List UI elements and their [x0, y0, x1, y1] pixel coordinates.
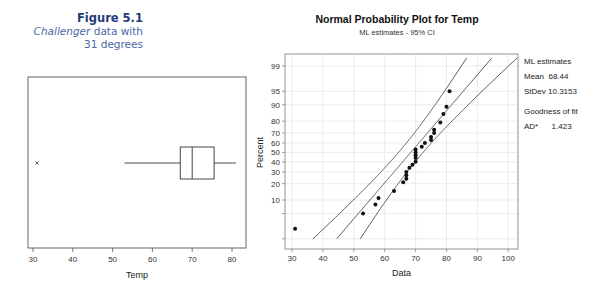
x-tick-label: 40: [318, 254, 327, 263]
data-point: [438, 120, 442, 124]
stats-panel: ML estimates Mean 68.44 StDev 10.3153 Go…: [524, 56, 578, 132]
chart-title: Normal Probability Plot for Temp: [315, 13, 478, 25]
chart-subtitle: ML estimates - 95% CI: [359, 28, 435, 37]
x-tick-label: 30: [29, 255, 38, 264]
y-tick-label: 40: [271, 158, 280, 167]
probplot-frame: [285, 54, 518, 249]
x-tick-label: 40: [68, 255, 77, 264]
y-tick-label: 60: [271, 139, 280, 148]
x-axis-label: Temp: [126, 270, 148, 280]
data-point: [414, 160, 418, 164]
charts-canvas: 304050607080TempNormal Probability Plot …: [0, 0, 615, 296]
data-point: [392, 189, 396, 193]
data-point: [429, 135, 433, 139]
data-point: [361, 211, 365, 215]
ad-row: AD* 1.423: [524, 121, 578, 132]
y-tick-label: 70: [271, 129, 280, 138]
x-tick-label: 30: [288, 254, 297, 263]
y-tick-label: 30: [271, 168, 280, 177]
y-axis-label: Percent: [255, 136, 265, 168]
fit-line: [337, 57, 493, 239]
data-points: [293, 89, 452, 230]
x-tick-label: 100: [502, 254, 516, 263]
data-point: [448, 89, 452, 93]
y-tick-label: 50: [271, 148, 280, 157]
grid: [285, 54, 518, 249]
goodness-of-fit-heading: Goodness of fit: [524, 106, 578, 117]
iqr-box: [180, 147, 214, 179]
data-point: [414, 148, 418, 152]
x-tick-label: 60: [380, 254, 389, 263]
y-tick-label: 10: [271, 196, 280, 205]
y-tick-label: 99: [271, 62, 280, 71]
stdev-row: StDev 10.3153: [524, 86, 578, 97]
data-point: [293, 227, 297, 231]
y-tick-label: 95: [271, 87, 280, 96]
x-tick-label: 50: [349, 254, 358, 263]
x-tick-label: 90: [473, 254, 482, 263]
data-point: [407, 166, 411, 170]
data-point: [404, 177, 408, 181]
data-point: [377, 196, 381, 200]
y-tick-label: 20: [271, 180, 280, 189]
data-point: [411, 163, 415, 167]
y-tick-label: 90: [271, 101, 280, 110]
x-tick-label: 70: [411, 254, 420, 263]
ml-estimates-heading: ML estimates: [524, 56, 578, 67]
data-point: [401, 180, 405, 184]
mean-row: Mean 68.44: [524, 71, 578, 82]
x-tick-label: 80: [442, 254, 451, 263]
x-tick-label: 50: [108, 255, 117, 264]
y-tick-label: 80: [271, 117, 280, 126]
data-point: [420, 145, 424, 149]
data-point: [441, 112, 445, 116]
x-tick-label: 80: [228, 255, 237, 264]
data-point: [404, 170, 408, 174]
ci-upper-band: [313, 57, 467, 239]
ci-lower-band: [360, 57, 518, 239]
data-point: [445, 105, 449, 109]
data-point: [423, 141, 427, 145]
x-axis-label: Data: [392, 268, 411, 278]
x-tick-label: 60: [148, 255, 157, 264]
data-point: [373, 203, 377, 207]
data-point: [432, 128, 436, 132]
x-tick-label: 70: [188, 255, 197, 264]
